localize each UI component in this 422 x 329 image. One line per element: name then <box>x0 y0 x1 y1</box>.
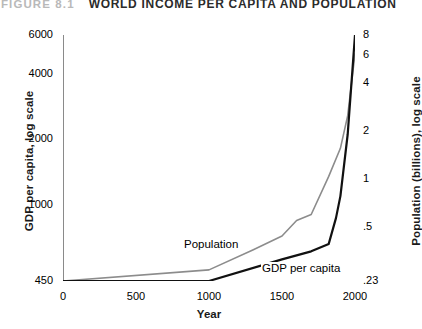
axis-tick-label: 1000 <box>186 290 232 302</box>
axis-tick-label: .5 <box>363 220 393 232</box>
axis-tick-label: 8 <box>363 28 393 40</box>
figure-number: FIGURE 8.1 <box>0 0 75 10</box>
y-axis-left-title: GDP per capita, log scale <box>23 76 35 246</box>
page-title: WORLD INCOME PER CAPITA AND POPULATION <box>89 0 397 11</box>
axis-tick-label: 6000 <box>15 28 53 40</box>
axis-tick-label: 6 <box>363 48 393 60</box>
axis-tick-label: 0 <box>40 290 86 302</box>
series-label-gdp: GDP per capita <box>261 262 341 274</box>
axis-tick-label: 1500 <box>259 290 305 302</box>
x-axis-title: Year <box>63 308 355 320</box>
axis-tick-label: 500 <box>113 290 159 302</box>
axis-tick-label: 450 <box>15 274 53 286</box>
axis-tick-label: 2000 <box>15 132 53 144</box>
axis-tick-label: 2 <box>363 124 393 136</box>
y-axis-right-title: Population (billions), log scale <box>410 76 422 246</box>
axis-tick-label: .23 <box>363 274 393 286</box>
series-label-population: Population <box>183 238 239 250</box>
figure-title-bar: FIGURE 8.1 WORLD INCOME PER CAPITA AND P… <box>0 0 415 13</box>
axis-tick-label: 4000 <box>15 67 53 79</box>
axis-tick-label: 1 <box>363 172 393 184</box>
axis-tick-label: 1000 <box>15 198 53 210</box>
axis-tick-label: 4 <box>363 76 393 88</box>
axis-tick-label: 2000 <box>332 290 378 302</box>
